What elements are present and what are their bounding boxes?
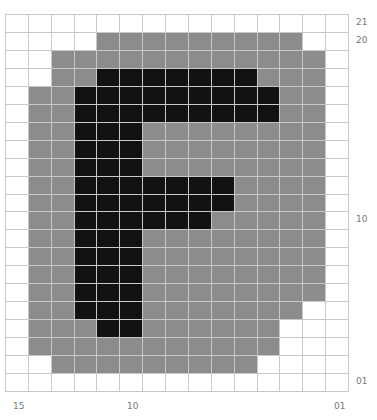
grid-cell xyxy=(6,159,28,176)
grid-cell xyxy=(166,266,188,283)
grid-cell xyxy=(52,51,74,68)
grid-cell xyxy=(258,356,280,373)
grid-cell xyxy=(189,356,211,373)
grid-cell xyxy=(303,87,325,104)
grid-cell xyxy=(120,284,142,301)
grid-cell xyxy=(75,51,97,68)
grid-cell xyxy=(280,284,302,301)
grid-cell xyxy=(235,266,257,283)
grid-cell xyxy=(29,141,51,158)
grid-cell xyxy=(212,141,234,158)
grid-cell xyxy=(280,195,302,212)
grid-cell xyxy=(120,248,142,265)
grid-cell xyxy=(52,212,74,229)
grid-cell xyxy=(120,374,142,391)
grid-cell xyxy=(212,248,234,265)
grid-cell xyxy=(303,302,325,319)
grid-cell xyxy=(75,284,97,301)
grid-cell xyxy=(97,302,119,319)
grid-cell xyxy=(97,159,119,176)
grid-cell xyxy=(326,105,348,122)
row-label-20: 20 xyxy=(356,35,367,45)
grid-cell xyxy=(143,374,165,391)
grid-cell xyxy=(258,87,280,104)
grid-cell xyxy=(212,302,234,319)
grid-cell xyxy=(6,338,28,355)
grid-cell xyxy=(120,230,142,247)
grid-cell xyxy=(235,141,257,158)
grid-cell xyxy=(166,33,188,50)
grid-cell xyxy=(235,230,257,247)
grid-cell xyxy=(303,248,325,265)
grid-cell xyxy=(280,87,302,104)
grid-cell xyxy=(258,15,280,32)
grid-cell xyxy=(280,230,302,247)
grid-cell xyxy=(97,338,119,355)
grid-cell xyxy=(258,177,280,194)
grid-cell xyxy=(212,177,234,194)
grid-cell xyxy=(303,51,325,68)
grid-cell xyxy=(166,51,188,68)
grid-cell xyxy=(212,374,234,391)
grid-cell xyxy=(143,302,165,319)
grid-cell xyxy=(189,195,211,212)
grid-cell xyxy=(75,230,97,247)
grid-cell xyxy=(166,141,188,158)
grid-cell xyxy=(97,51,119,68)
grid-cell xyxy=(6,302,28,319)
grid-cell xyxy=(143,338,165,355)
grid-cell xyxy=(258,141,280,158)
grid-cell xyxy=(120,141,142,158)
grid-cell xyxy=(143,15,165,32)
grid-cell xyxy=(6,374,28,391)
grid-cell xyxy=(166,195,188,212)
grid-cell xyxy=(166,123,188,140)
grid-cell xyxy=(52,230,74,247)
grid-cell xyxy=(143,159,165,176)
grid-cell xyxy=(143,177,165,194)
grid-cell xyxy=(326,141,348,158)
grid-cell xyxy=(326,195,348,212)
grid-cell xyxy=(235,87,257,104)
grid-cell xyxy=(6,248,28,265)
grid-cell xyxy=(52,374,74,391)
grid-cell xyxy=(326,212,348,229)
grid-cell xyxy=(6,33,28,50)
grid-cell xyxy=(75,320,97,337)
grid-cell xyxy=(212,338,234,355)
grid-cell xyxy=(29,177,51,194)
grid-cell xyxy=(303,123,325,140)
grid-cell xyxy=(303,33,325,50)
grid-cell xyxy=(258,33,280,50)
grid-cell xyxy=(120,338,142,355)
grid-cell xyxy=(97,15,119,32)
grid-cell xyxy=(166,284,188,301)
grid-cell xyxy=(189,248,211,265)
grid-cell xyxy=(52,284,74,301)
grid-cell xyxy=(280,356,302,373)
grid-cell xyxy=(212,159,234,176)
grid-cell xyxy=(258,230,280,247)
grid-cell xyxy=(120,177,142,194)
grid-cell xyxy=(235,51,257,68)
grid-cell xyxy=(258,195,280,212)
grid-cell xyxy=(326,230,348,247)
grid-cell xyxy=(29,33,51,50)
grid-cell xyxy=(189,230,211,247)
grid-cell xyxy=(6,141,28,158)
grid-cell xyxy=(189,338,211,355)
grid-cell xyxy=(258,123,280,140)
grid-cell xyxy=(97,105,119,122)
grid-cell xyxy=(235,15,257,32)
grid-cell xyxy=(235,69,257,86)
grid-cell xyxy=(52,177,74,194)
grid-cell xyxy=(97,374,119,391)
grid-cell xyxy=(75,374,97,391)
row-label-21: 21 xyxy=(356,17,367,27)
grid-cell xyxy=(75,69,97,86)
grid-cell xyxy=(120,212,142,229)
grid-cell xyxy=(280,141,302,158)
grid-cell xyxy=(143,141,165,158)
grid-cell xyxy=(52,69,74,86)
grid-cell xyxy=(120,356,142,373)
